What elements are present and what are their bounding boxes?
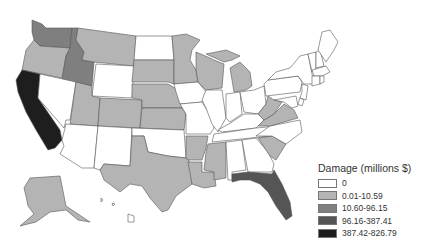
state-MT xyxy=(76,28,136,66)
legend-item: 387.42-826.79 xyxy=(318,227,411,240)
legend-item: 0.01-10.59 xyxy=(318,190,411,203)
legend-item: 96.16-387.41 xyxy=(318,215,411,228)
legend-item: 10.60-96.15 xyxy=(318,202,411,215)
state-KS xyxy=(140,108,186,130)
state-CO xyxy=(98,98,142,128)
legend-label: 96.16-387.41 xyxy=(342,216,392,226)
legend-swatch-0 xyxy=(318,179,337,188)
legend-label: 0 xyxy=(342,178,347,188)
legend-item: 0 xyxy=(318,177,411,190)
legend-swatch-2 xyxy=(318,204,337,213)
state-WY xyxy=(92,64,134,98)
legend-title: Damage (millions $) xyxy=(318,162,411,174)
state-AK xyxy=(20,176,90,226)
legend: Damage (millions $) 0 0.01-10.59 10.60-9… xyxy=(318,162,411,240)
legend-swatch-3 xyxy=(318,216,337,225)
state-CT xyxy=(312,76,320,86)
legend-swatch-1 xyxy=(318,191,337,200)
state-HI xyxy=(101,198,134,222)
state-ND xyxy=(134,36,174,60)
state-SD xyxy=(132,60,174,84)
state-RI xyxy=(320,76,324,84)
state-AZ xyxy=(60,124,98,168)
legend-swatch-4 xyxy=(318,229,337,238)
state-FL xyxy=(232,170,292,220)
legend-label: 0.01-10.59 xyxy=(342,191,383,201)
state-AR xyxy=(186,136,208,160)
state-NM xyxy=(94,126,132,170)
legend-label: 387.42-826.79 xyxy=(342,228,397,238)
legend-label: 10.60-96.15 xyxy=(342,203,387,213)
